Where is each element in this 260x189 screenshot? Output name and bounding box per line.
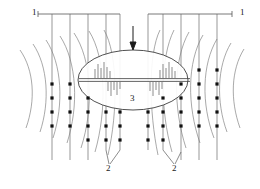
sensor-dot <box>86 124 89 127</box>
sensor-dot <box>86 96 89 99</box>
sensor-dot <box>215 68 218 71</box>
field-curve <box>205 39 217 138</box>
field-curve <box>220 43 231 132</box>
sensor-dot <box>161 110 164 113</box>
sensor-dot <box>50 124 53 127</box>
sensor-dot <box>179 110 182 113</box>
sensor-dot <box>86 138 89 141</box>
sensor-dot <box>215 124 218 127</box>
callout-label-2-left: 2 <box>106 164 111 173</box>
field-curve <box>33 44 46 132</box>
arrow-head-icon <box>130 42 136 50</box>
sensor-dot <box>197 68 200 71</box>
field-curve <box>20 50 32 128</box>
injection-arrow <box>130 26 136 50</box>
field-curve <box>60 36 75 143</box>
bus-bar-left-group <box>38 11 120 17</box>
bus-bar-right-group <box>148 11 232 17</box>
leader-line <box>163 150 174 164</box>
sensor-dot <box>104 110 107 113</box>
sensor-dot <box>68 124 71 127</box>
sensor-dot <box>197 96 200 99</box>
sensor-dot <box>197 124 200 127</box>
sensor-dot <box>146 110 149 113</box>
sensor-dot <box>118 110 121 113</box>
sensor-dot <box>161 124 164 127</box>
callout-label-3-center: 3 <box>130 94 135 103</box>
sensor-dot <box>118 124 121 127</box>
sensor-dot <box>118 138 121 141</box>
sensor-dot <box>179 96 182 99</box>
field-curve <box>46 40 60 138</box>
sensor-dot <box>68 96 71 99</box>
callout-label-2-right: 2 <box>172 164 177 173</box>
sensor-dot <box>50 110 53 113</box>
figure-canvas: 1 1 2 2 3 <box>0 0 260 189</box>
sensor-dot <box>146 138 149 141</box>
sensor-dot <box>86 110 89 113</box>
sensor-dot <box>104 124 107 127</box>
sensor-dot <box>68 82 71 85</box>
sensor-dot <box>197 82 200 85</box>
callout-label-1-left: 1 <box>32 8 37 17</box>
sensor-dot <box>50 82 53 85</box>
sensor-dot <box>161 96 164 99</box>
field-curve <box>233 49 244 128</box>
sensor-dot <box>68 110 71 113</box>
sensor-dot <box>179 82 182 85</box>
sensor-dot <box>179 124 182 127</box>
sensor-dot <box>161 138 164 141</box>
sensor-dot <box>50 96 53 99</box>
sensor-dot <box>215 96 218 99</box>
callout-label-1-right: 1 <box>240 8 245 17</box>
sensor-dot <box>197 110 200 113</box>
leader-line <box>110 150 120 164</box>
leader-lines-callout2-left <box>106 150 120 164</box>
sensor-dot <box>104 138 107 141</box>
field-curve <box>191 35 203 143</box>
sensor-dot <box>146 124 149 127</box>
sensor-dot <box>215 110 218 113</box>
leader-lines-callout2-right <box>163 150 181 164</box>
sensor-dot <box>215 82 218 85</box>
